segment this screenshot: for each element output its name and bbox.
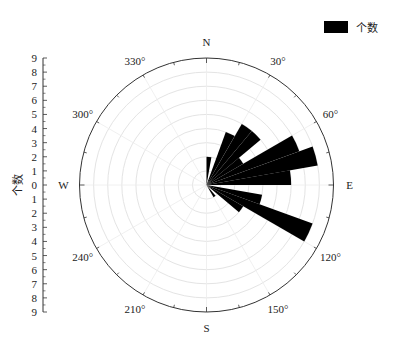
scale-tick-label: 3 xyxy=(32,137,38,149)
angle-label: W xyxy=(58,179,69,191)
radial-scale-bar: 9876543210123456789 xyxy=(32,52,48,318)
scale-tick-label: 2 xyxy=(32,207,38,219)
scale-tick-label: 9 xyxy=(32,306,38,318)
angle-label: 330° xyxy=(125,55,146,67)
angle-label: 240° xyxy=(72,251,93,263)
scale-tick-label: 5 xyxy=(32,108,38,120)
legend-label: 个数 xyxy=(356,19,378,35)
rose-diagram: N30°60°E120°150°S210°240°W300°330° 98765… xyxy=(0,0,397,351)
angle-label: E xyxy=(346,179,353,191)
scale-tick-label: 1 xyxy=(32,165,38,177)
angle-label: 210° xyxy=(125,303,146,315)
angle-label: 300° xyxy=(72,108,93,120)
scale-tick-label: 7 xyxy=(32,278,38,290)
angle-label: S xyxy=(203,322,209,334)
angle-label: N xyxy=(203,36,211,48)
scale-tick-label: 6 xyxy=(32,94,38,106)
scale-tick-label: 0 xyxy=(32,179,38,191)
scale-tick-label: 7 xyxy=(32,80,38,92)
radial-axis-title: 个数 xyxy=(12,174,24,196)
angle-label: 60° xyxy=(323,108,338,120)
scale-tick-label: 8 xyxy=(32,292,38,304)
angle-label: 150° xyxy=(268,303,289,315)
scale-tick-label: 6 xyxy=(32,264,38,276)
scale-tick-label: 2 xyxy=(32,151,38,163)
angle-label: 120° xyxy=(320,251,341,263)
scale-tick-label: 8 xyxy=(32,66,38,78)
scale-tick-label: 5 xyxy=(32,250,38,262)
scale-tick-label: 4 xyxy=(32,123,38,135)
scale-tick-label: 1 xyxy=(32,193,38,205)
scale-tick-label: 3 xyxy=(32,221,38,233)
legend: 个数 xyxy=(324,19,378,35)
legend-swatch xyxy=(324,21,348,33)
angle-label: 30° xyxy=(270,55,285,67)
scale-tick-label: 4 xyxy=(32,235,38,247)
scale-tick-label: 9 xyxy=(32,52,38,64)
